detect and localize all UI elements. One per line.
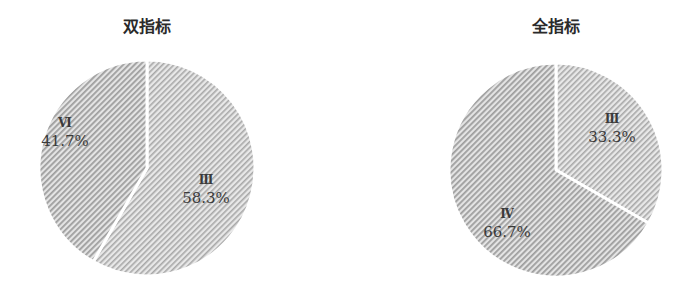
slice-label-right-0: Ⅲ 33.3% — [588, 111, 636, 147]
pie-chart-dual-indicator — [39, 60, 255, 276]
slice-percent: 58.3% — [182, 189, 230, 207]
slice-label-right-1: Ⅳ 66.7% — [483, 206, 531, 242]
pie-charts-canvas — [0, 0, 695, 306]
slice-percent: 33.3% — [588, 128, 636, 146]
slice-label-left-1: Ⅵ 41.7% — [41, 115, 89, 151]
slice-label-left-0: Ⅲ 58.3% — [182, 172, 230, 208]
slice-percent: 41.7% — [41, 132, 89, 150]
chart-title-left: 双指标 — [123, 13, 171, 37]
slice-category: Ⅳ — [483, 206, 531, 222]
slice-category: Ⅲ — [182, 172, 230, 188]
pie-chart-all-indicator — [449, 63, 663, 277]
slice-category: Ⅵ — [41, 115, 89, 131]
slice-category: Ⅲ — [588, 111, 636, 127]
slice-percent: 66.7% — [483, 223, 531, 241]
chart-title-right: 全指标 — [532, 13, 580, 37]
